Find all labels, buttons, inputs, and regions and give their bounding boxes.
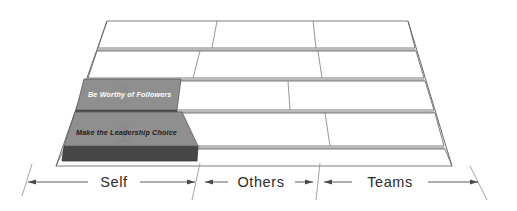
axis-arrow-self-start — [28, 180, 36, 185]
axis-arrow-teams-start — [324, 180, 332, 185]
axis-label-self: Self — [100, 174, 128, 190]
scope-axis: Self Others Teams — [22, 163, 487, 200]
grid-row-1 — [87, 51, 425, 81]
axis-arrow-self-end — [187, 180, 195, 185]
axis-arrow-others-start — [205, 180, 213, 185]
axis-label-others: Others — [237, 174, 284, 190]
grid-row-0 — [97, 21, 416, 51]
slab-row0 — [98, 21, 415, 48]
diagram-canvas: 2 Be Worthy of Followers 1 Make the Lead… — [0, 0, 517, 211]
axis-ext-mid2 — [316, 163, 320, 200]
block-1[interactable]: 1 Make the Leadership Choice — [62, 112, 198, 161]
axis-segment-self: Self — [28, 174, 195, 190]
perspective-grid-svg: 2 Be Worthy of Followers 1 Make the Lead… — [0, 0, 517, 211]
slab-row1 — [88, 51, 424, 78]
axis-arrow-others-end — [305, 180, 313, 185]
axis-ext-left — [22, 164, 32, 196]
axis-segment-teams: Teams — [324, 174, 478, 190]
block-1-label: Make the Leadership Choice — [76, 128, 177, 137]
axis-label-teams: Teams — [367, 174, 413, 190]
block-2[interactable]: 2 Be Worthy of Followers — [75, 77, 181, 116]
block-2-label: Be Worthy of Followers — [88, 90, 171, 99]
axis-segment-others: Others — [205, 174, 313, 190]
